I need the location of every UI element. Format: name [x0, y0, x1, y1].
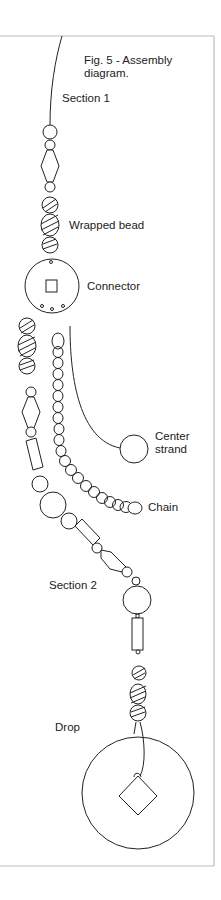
label-wrapped-bead: Wrapped bead — [69, 218, 144, 232]
label-chain: Chain — [148, 500, 178, 514]
label-section-2: Section 2 — [49, 578, 97, 592]
wrapped-bead-stack-2 — [18, 318, 36, 374]
label-center-strand-line1: Center — [155, 429, 190, 443]
label-center-strand-line2: strand — [155, 442, 187, 456]
connector-disc — [25, 259, 79, 313]
section1-strand — [41, 36, 62, 192]
drop-pendant — [82, 722, 194, 849]
left-strand-beads — [22, 387, 66, 518]
label-drop: Drop — [55, 720, 80, 734]
figure-caption-line1: Fig. 5 - Assembly — [84, 53, 172, 67]
diagram-drawing — [0, 0, 221, 900]
center-strand — [70, 326, 148, 463]
label-connector: Connector — [87, 279, 140, 293]
wrapped-bead-stack-1 — [41, 197, 59, 253]
figure-caption-line2: diagram. — [84, 66, 129, 80]
label-section-1: Section 1 — [62, 91, 110, 105]
chain — [52, 333, 142, 514]
wrapped-bead-stack-3 — [130, 666, 146, 721]
assembly-diagram: Fig. 5 - Assembly diagram. Section 1 Wra… — [0, 0, 221, 900]
